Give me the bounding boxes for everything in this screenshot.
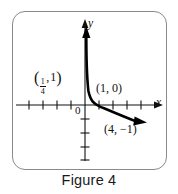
- figure-caption: Figure 4: [0, 172, 178, 188]
- label-close-paren: ): [56, 69, 61, 86]
- point-label-one-zero: (1, 0): [96, 81, 122, 96]
- figure-container: (14, 1) (1, 0) (4, −1) 0 x y Figure 4: [0, 0, 178, 194]
- point-label-one-quarter-one: (14, 1): [34, 69, 62, 96]
- label-separator: ,: [46, 70, 49, 84]
- label-open-paren: (: [34, 69, 39, 86]
- fraction-denominator: 4: [40, 88, 46, 96]
- fraction-one-fourth: 14: [40, 78, 46, 96]
- fraction-numerator: 1: [40, 78, 46, 86]
- origin-label: 0: [75, 104, 81, 116]
- point-label-four-negative-one: (4, −1): [104, 122, 137, 137]
- y-axis-label: y: [88, 17, 93, 29]
- logarithmic-curve: [86, 35, 136, 122]
- x-axis-label: x: [156, 96, 161, 108]
